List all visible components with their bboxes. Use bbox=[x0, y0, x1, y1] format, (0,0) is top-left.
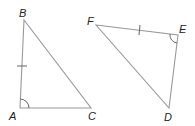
triangle-fed: F E D bbox=[87, 15, 187, 123]
vertex-label-e: E bbox=[179, 23, 187, 35]
angle-arc-e bbox=[170, 34, 177, 43]
vertex-label-d: D bbox=[164, 111, 172, 123]
triangle-fed-outline bbox=[96, 25, 178, 108]
triangle-abc: B A C bbox=[8, 7, 96, 122]
geometry-figure: B A C F E D bbox=[0, 0, 195, 126]
angle-arc-a bbox=[20, 99, 29, 108]
vertex-label-c: C bbox=[88, 110, 96, 122]
vertex-label-f: F bbox=[87, 15, 95, 27]
tick-mark-fe bbox=[139, 25, 140, 35]
vertex-label-b: B bbox=[19, 7, 26, 19]
vertex-label-a: A bbox=[8, 110, 16, 122]
triangle-abc-outline bbox=[20, 20, 91, 108]
